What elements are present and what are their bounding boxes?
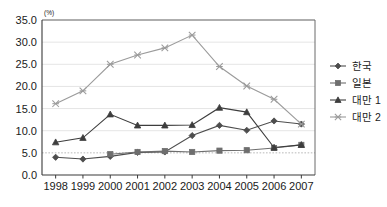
y-axis-tick-label: 35.0 (16, 14, 37, 26)
data-point-marker (217, 148, 222, 153)
chart-legend: 한국일본대만 1대만 2 (330, 60, 381, 123)
x-axis-tick-label: 1999 (71, 180, 95, 192)
legend-label: 일본 (352, 77, 372, 89)
legend-label: 한국 (352, 60, 372, 72)
y-axis-unit-label: (%) (44, 9, 54, 17)
x-axis-tick-label: 2007 (289, 180, 313, 192)
x-axis-tick-label: 2005 (235, 180, 259, 192)
y-axis-tick-label: 5.0 (22, 147, 37, 159)
legend-item[interactable]: 대만 1 (330, 94, 381, 106)
legend-item[interactable]: 대만 2 (330, 111, 381, 123)
y-axis-tick-labels: 0.05.010.015.020.025.030.035.0 (16, 14, 37, 181)
data-point-marker (244, 148, 249, 153)
x-axis-tick-label: 2001 (125, 180, 149, 192)
data-point-marker (135, 149, 140, 154)
chart-canvas: 0.05.010.015.020.025.030.035.0 199819992… (0, 0, 387, 207)
data-point-marker (108, 152, 113, 157)
legend-label: 대만 1 (352, 94, 381, 106)
x-axis-tick-labels: 1998199920002001200220032004200520062007 (43, 175, 313, 192)
y-axis-tick-label: 30.0 (16, 36, 37, 48)
x-axis-tick-label: 1998 (43, 180, 67, 192)
legend-label: 대만 2 (352, 111, 381, 123)
y-axis-tick-label: 25.0 (16, 58, 37, 70)
x-axis-tick-label: 2003 (180, 180, 204, 192)
x-axis-tick-label: 2000 (98, 180, 122, 192)
data-point-marker (190, 149, 195, 154)
y-axis-tick-label: 20.0 (16, 80, 37, 92)
data-point-marker (335, 114, 341, 120)
x-axis-tick-label: 2004 (207, 180, 231, 192)
data-point-marker (162, 148, 167, 153)
y-axis-tick-label: 10.0 (16, 125, 37, 137)
legend-item[interactable]: 한국 (330, 60, 372, 72)
data-point-marker (336, 81, 341, 86)
legend-item[interactable]: 일본 (330, 77, 372, 89)
y-axis-tick-label: 0.0 (22, 169, 37, 181)
x-axis-tick-label: 2006 (262, 180, 286, 192)
y-axis-tick-label: 15.0 (16, 103, 37, 115)
line-chart: 0.05.010.015.020.025.030.035.0 199819992… (0, 0, 387, 207)
data-point-marker (335, 63, 341, 69)
x-axis-tick-label: 2002 (153, 180, 177, 192)
